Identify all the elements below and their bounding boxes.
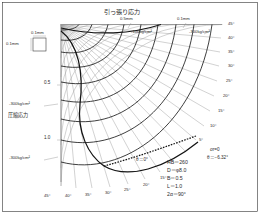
param-hb: HB＝260 bbox=[167, 160, 188, 165]
angle-right-20: 20° bbox=[223, 94, 229, 98]
scale-key-horizontal-label: 0.1mm bbox=[6, 42, 19, 46]
depth-tick-10: 1.0 bbox=[44, 136, 50, 141]
angle-bottom-45: 45° bbox=[44, 194, 50, 198]
compressive-stress-label: 圧縮応力 bbox=[8, 113, 28, 118]
angle-right-35: 35° bbox=[228, 50, 234, 54]
depth-label-01mm: 0.1mm bbox=[177, 17, 190, 21]
stress-label-300-top: -300kg/cm² bbox=[189, 30, 210, 34]
angle-right-10: 10° bbox=[210, 124, 216, 128]
depth-tick-05: 0.5 bbox=[44, 81, 50, 86]
principal-stress-curve bbox=[61, 25, 198, 172]
angle-bottom-15: 15° bbox=[160, 176, 166, 180]
depth-axis-ticks bbox=[57, 85, 61, 140]
stress-label-300-left: -300kg/cm² bbox=[9, 102, 30, 106]
angle-bottom-35: 35° bbox=[85, 193, 91, 197]
angle-right-5: 5° bbox=[199, 138, 203, 142]
angle-bottom-20: 20° bbox=[143, 183, 149, 187]
angle-bottom-40: 40° bbox=[65, 194, 71, 198]
depth-label-05mm: 0.5mm bbox=[120, 17, 133, 21]
theta-zero-annotation: θ＝0° bbox=[136, 158, 148, 163]
param-l: L＝1.0 bbox=[167, 184, 182, 189]
angle-bottom-30: 30° bbox=[105, 191, 111, 195]
angle-right-15: 15° bbox=[218, 109, 224, 113]
param-d: D＝φ8.0 bbox=[167, 168, 186, 173]
angle-right-25: 25° bbox=[226, 79, 232, 83]
angle-ray-group bbox=[61, 25, 222, 189]
param-b: B＝0.5 bbox=[167, 176, 183, 181]
theta-negative-annotation: θ＝−6.32° bbox=[207, 156, 228, 161]
stress-label-300-bottom: -300kg/cm² bbox=[9, 156, 30, 160]
angle-right-45: 45° bbox=[228, 22, 234, 26]
chart-title: 引っ張り応力 bbox=[104, 9, 140, 15]
scale-key bbox=[31, 36, 46, 51]
scale-key-vertical-label: 0.1mm bbox=[31, 31, 44, 35]
param-2alpha: 2α＝90° bbox=[167, 192, 186, 197]
angle-right-40: 40° bbox=[228, 36, 234, 40]
angle-bottom-25: 25° bbox=[124, 188, 130, 192]
sigma-r-zero-annotation: σr=0 bbox=[210, 148, 220, 153]
angle-right-30: 30° bbox=[228, 64, 234, 68]
stress-distribution-figure: 引っ張り応力 0.5mm 0.1mm -100kg/cm² -300kg/cm²… bbox=[0, 0, 260, 214]
stress-label-100: -100kg/cm² bbox=[131, 30, 152, 34]
